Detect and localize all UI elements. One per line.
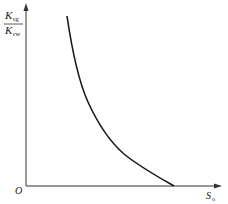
y-axis-arrow-icon [24, 3, 29, 11]
y-label-denominator-sub: rw [13, 30, 21, 38]
y-label-numerator: K [4, 9, 13, 21]
x-label-sub: o [212, 196, 215, 202]
origin-label: O [15, 185, 22, 196]
y-label-numerator-sub: rg [13, 15, 19, 23]
x-label-main: S [206, 190, 211, 201]
x-axis-arrow-icon [214, 184, 222, 189]
y-axis-label: K rg K rw [4, 9, 23, 38]
data-curve [67, 16, 174, 186]
chart: K rg K rw O S o [0, 0, 228, 204]
x-axis-label: S o [206, 190, 215, 202]
y-label-denominator: K [4, 24, 13, 36]
